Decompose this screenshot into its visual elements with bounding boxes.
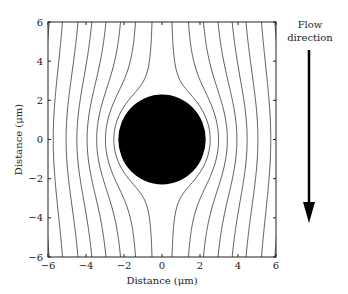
streamline bbox=[53, 22, 62, 257]
x-tick-label: 6 bbox=[273, 260, 279, 271]
y-tick-label: 4 bbox=[37, 56, 43, 67]
flow-arrow-head-icon bbox=[303, 202, 315, 223]
streamline bbox=[262, 22, 271, 257]
y-tick-label: 6 bbox=[37, 17, 43, 28]
flow-label-line1: Flow bbox=[282, 18, 338, 31]
x-tick-label: 0 bbox=[159, 260, 165, 271]
y-tick-label: 0 bbox=[37, 134, 43, 145]
flow-label-line2: direction bbox=[282, 31, 338, 44]
y-tick-label: −6 bbox=[28, 252, 43, 263]
y-tick-label: 2 bbox=[37, 95, 43, 106]
flow-direction-legend: Flow direction bbox=[282, 18, 338, 44]
y-axis-label: Distance (μm) bbox=[13, 104, 24, 175]
x-tick-label: −4 bbox=[79, 260, 94, 271]
particle-obstacle bbox=[118, 94, 205, 184]
streamline bbox=[97, 22, 121, 257]
x-tick-label: 2 bbox=[197, 260, 203, 271]
streamline bbox=[232, 22, 247, 257]
x-tick-label: −2 bbox=[117, 260, 132, 271]
streamline-plot: −6−4−20246−6−4−20246Distance (μm)Distanc… bbox=[0, 0, 348, 294]
streamline bbox=[77, 22, 92, 257]
streamline bbox=[246, 22, 258, 257]
streamline bbox=[203, 22, 227, 257]
streamline bbox=[66, 22, 78, 257]
x-axis-label: Distance (μm) bbox=[126, 275, 197, 286]
y-tick-label: −2 bbox=[28, 173, 43, 184]
x-tick-label: 4 bbox=[235, 260, 241, 271]
y-tick-label: −4 bbox=[28, 212, 43, 223]
